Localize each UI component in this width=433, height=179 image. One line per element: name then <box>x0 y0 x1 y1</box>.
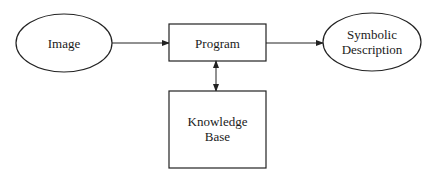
knowledge-label-line1: Knowledge <box>188 114 248 129</box>
symbolic-label-line2: Description <box>342 42 403 57</box>
image-label: Image <box>48 36 81 51</box>
node-image: Image <box>16 14 112 72</box>
node-knowledge-base: Knowledge Base <box>169 91 266 168</box>
diagram-canvas: Image Program Symbolic Description Knowl… <box>0 0 433 179</box>
node-symbolic-description: Symbolic Description <box>323 13 421 71</box>
program-label: Program <box>195 36 240 51</box>
knowledge-label-line2: Base <box>205 129 231 144</box>
symbolic-label-line1: Symbolic <box>347 27 397 42</box>
node-program: Program <box>169 24 266 61</box>
